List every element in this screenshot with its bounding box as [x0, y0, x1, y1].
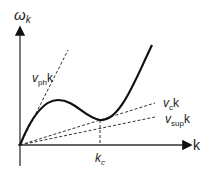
vc-label: vck [163, 96, 180, 112]
x-axis-label: k [193, 137, 201, 153]
vph-label: vphk [32, 71, 54, 87]
vsup-line [20, 117, 155, 145]
vsup-label: vsupk [165, 112, 191, 128]
y-axis-label: ωk [14, 6, 32, 25]
dispersion-diagram: ωk k vphk vck vsupk kc [0, 0, 207, 173]
dispersion-curve [20, 45, 152, 145]
kc-label: kc [95, 151, 105, 167]
